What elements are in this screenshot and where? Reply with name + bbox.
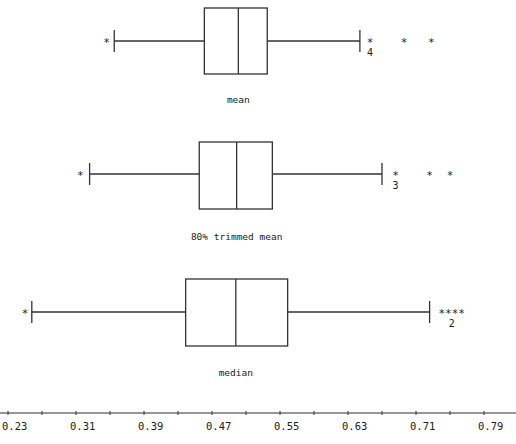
outlier-count: 3 xyxy=(393,180,399,191)
outlier-star-icon: * xyxy=(103,36,110,49)
outlier-star-icon: * xyxy=(428,36,435,49)
iqr-box xyxy=(186,279,288,346)
iqr-box xyxy=(199,142,272,209)
outlier-count: 2 xyxy=(449,318,455,329)
x-tick-label: 0.63 xyxy=(342,420,367,432)
x-tick-label: 0.79 xyxy=(478,420,503,432)
series-label: 80% trimmed mean xyxy=(191,231,283,242)
outlier-star-icon: * xyxy=(22,307,29,320)
outlier-star-icon: * xyxy=(426,169,433,182)
x-tick-label: 0.71 xyxy=(410,420,435,432)
series-label: median xyxy=(219,367,253,378)
boxplot-chart: ****4mean****380% trimmed mean*****2medi… xyxy=(0,0,516,444)
series-label: mean xyxy=(227,94,250,105)
iqr-box xyxy=(204,8,267,74)
x-tick-label: 0.31 xyxy=(70,420,95,432)
x-tick-label: 0.47 xyxy=(206,420,231,432)
x-axis: 0.230.310.390.470.550.630.710.79 xyxy=(0,411,516,432)
outlier-star-icon: * xyxy=(447,169,454,182)
outlier-count: 4 xyxy=(367,47,373,58)
boxplot-group: ****4mean****380% trimmed mean*****2medi… xyxy=(22,8,465,378)
boxplot-mean: ****4mean xyxy=(103,8,434,105)
outlier-star-icon: * xyxy=(401,36,408,49)
x-tick-label: 0.23 xyxy=(2,420,27,432)
outlier-star-icon: * xyxy=(77,169,84,182)
boxplot-median: *****2median xyxy=(22,279,465,378)
boxplot-80-trimmed-mean: ****380% trimmed mean xyxy=(77,142,453,242)
x-tick-label: 0.39 xyxy=(138,420,163,432)
x-tick-label: 0.55 xyxy=(274,420,299,432)
